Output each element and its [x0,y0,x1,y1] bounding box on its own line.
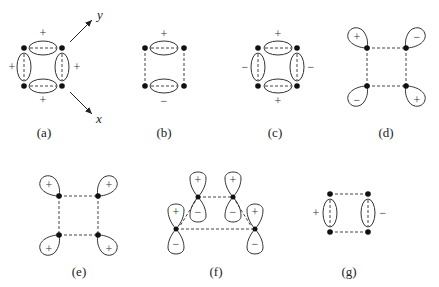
panel-label: (g) [341,264,356,279]
panel-c: + − − + (c) [242,27,315,140]
phase-sign: − [380,206,387,220]
phase-sign: − [195,205,202,219]
panel-f: + − + − + − + − (f) [168,172,263,279]
atom [59,83,65,89]
phase-sign: − [230,205,237,219]
panel-label: (f) [210,264,223,279]
panel-b: + − (b) [142,27,187,140]
atom [21,45,27,51]
phase-sign: + [313,206,320,220]
panel-e: + + + + (e) [40,176,117,279]
phase-sign: + [414,93,421,107]
phase-sign: − [354,93,361,107]
x-axis-label: x [95,111,102,126]
panel-a: + + + + y x (a) [9,7,103,140]
phase-sign: + [195,173,202,187]
phase-sign: − [173,237,180,251]
phase-sign: + [230,173,237,187]
panel-label: (e) [72,264,86,279]
phase-sign: + [354,30,361,44]
phase-sign: + [106,178,113,192]
phase-sign: + [252,205,259,219]
phase-sign: − [161,94,168,108]
phase-sign: + [275,94,282,108]
phase-sign: + [9,60,16,74]
orbital-diagram-figure: + + + + y x (a) + − (b) [0,0,439,287]
phase-sign: + [161,27,168,41]
phase-sign: + [173,205,180,219]
panel-label: (c) [268,125,282,140]
y-axis-label: y [95,7,103,22]
phase-sign: + [40,93,47,107]
phase-sign: − [252,237,259,251]
phase-sign: − [242,60,249,74]
x-axis-arrow [70,92,92,114]
panel-label: (a) [37,125,51,140]
panel-label: (b) [156,125,171,140]
atom [21,83,27,89]
phase-sign: + [40,26,47,40]
phase-sign: + [275,27,282,41]
panel-d: + − − + (d) [348,28,425,140]
phase-sign: − [308,60,315,74]
panel-g: + − (g) [313,191,387,279]
phase-sign: + [46,242,53,256]
atom [59,45,65,51]
phase-sign: + [74,60,81,74]
panel-label: (d) [378,125,393,140]
y-axis-arrow [70,20,92,42]
phase-sign: − [414,30,421,44]
phase-sign: + [106,242,113,256]
phase-sign: + [46,178,53,192]
